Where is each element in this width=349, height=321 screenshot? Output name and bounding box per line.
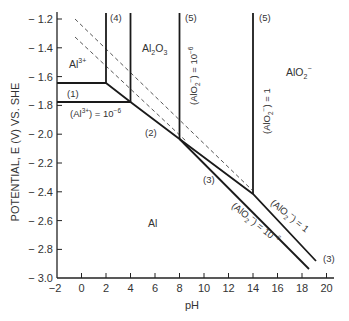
region-label-al2o3: Al2O3 xyxy=(142,42,167,56)
x-tick-label: −2 xyxy=(49,282,62,294)
line-3-alo2-1 xyxy=(180,139,317,261)
y-tick-labels: − 1.2 − 1.4 − 1.6 − 1.8 − 2.0 − 2.2 − 2.… xyxy=(28,13,53,284)
x-tick-label: 2 xyxy=(103,282,109,294)
y-tick-label: − 1.2 xyxy=(28,13,53,25)
y-tick-label: − 1.6 xyxy=(28,71,53,83)
y-axis-title: POTENTIAL, E (V) VS. SHE xyxy=(9,83,21,222)
x-tick-label: 20 xyxy=(320,282,332,294)
y-tick-label: − 2.8 xyxy=(28,243,53,255)
y-tick-label: − 2.6 xyxy=(28,215,53,227)
region-label-al: Al xyxy=(148,217,157,229)
y-tick-label: − 1.8 xyxy=(28,99,53,111)
eq-label-1: (1) xyxy=(67,88,79,99)
eq-label-3-right: (3) xyxy=(323,253,335,264)
y-tick-label: − 2.2 xyxy=(28,157,53,169)
eq-label-4: (4) xyxy=(110,12,122,23)
y-tick-label: − 1.4 xyxy=(28,42,53,54)
x-tick-label: 10 xyxy=(198,282,210,294)
x-axis-title: pH xyxy=(185,299,199,311)
line-3-alo2-1e-6 xyxy=(180,139,310,269)
y-tick-label: − 2.4 xyxy=(28,186,53,198)
x-tick-label: 16 xyxy=(271,282,283,294)
eq-label-5-right: (5) xyxy=(259,12,271,23)
y-tick-label: − 2.0 xyxy=(28,128,53,140)
water-stability-lines xyxy=(75,19,252,190)
x-tick-label: 12 xyxy=(222,282,234,294)
eq-label-2: (2) xyxy=(145,127,157,138)
x-tick-label: 6 xyxy=(152,282,158,294)
y-ticks xyxy=(57,19,62,249)
x-tick-label: 18 xyxy=(296,282,308,294)
eq-label-3: (3) xyxy=(203,174,215,185)
x-ticks xyxy=(82,273,327,278)
x-tick-label: 4 xyxy=(127,282,133,294)
dashed-line-upper xyxy=(75,19,252,190)
region-label-alo2: AlO2− xyxy=(286,65,312,80)
eq-label-5-left: (5) xyxy=(185,12,197,23)
al3-conc-label: (Al3+) = 10−6 xyxy=(70,107,121,119)
axes xyxy=(57,12,334,278)
x-tick-label: 0 xyxy=(78,282,84,294)
x-tick-label: 14 xyxy=(247,282,259,294)
x-tick-labels: −2 0 2 4 6 8 10 12 14 16 18 20 xyxy=(49,282,333,294)
pourbaix-diagram: − 1.2 − 1.4 − 1.6 − 1.8 − 2.0 − 2.2 − 2.… xyxy=(0,0,349,321)
region-label-al3: Al3+ xyxy=(69,57,86,70)
alo2-1e-6-vertical-label: (AlO2−) = 10−6 xyxy=(187,46,201,105)
alo2-1-vertical-label: (AlO2−) = 1 xyxy=(260,88,274,134)
x-tick-label: 8 xyxy=(176,282,182,294)
